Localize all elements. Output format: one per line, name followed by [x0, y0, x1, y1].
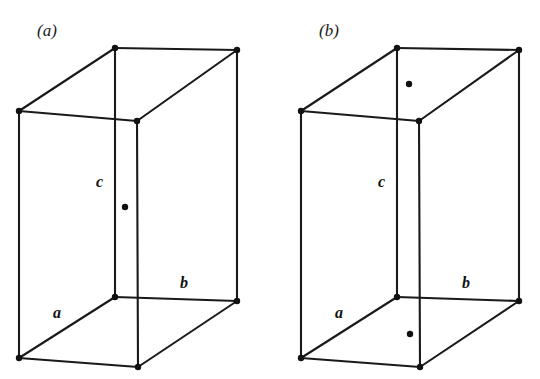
lattice-point-face-centre-dot — [122, 204, 128, 210]
panel-caption-a: (a) — [37, 21, 57, 40]
cell-edge-bottom-back-left-to-bottom-back-right — [115, 297, 237, 301]
cell-edge-top-front-right-to-bottom-front-right — [137, 121, 138, 367]
cell-edge-top-front-left-to-top-front-right — [19, 111, 137, 121]
vertex-dot-top-back-left — [394, 45, 400, 51]
vertex-dot-bottom-front-left — [16, 355, 22, 361]
cell-edge-bottom-back-right-to-bottom-front-right — [138, 301, 237, 367]
vertex-dot-top-front-right — [416, 118, 422, 124]
lattice-point-top-face-centre-dot — [406, 81, 412, 87]
cell-edge-top-front-right-to-bottom-front-right — [419, 121, 420, 367]
panel-caption-b: (b) — [319, 21, 339, 40]
figure-canvas: abc(a)abc(b) — [0, 0, 540, 379]
vertex-dot-bottom-back-left — [112, 294, 118, 300]
vertex-dot-top-back-right — [234, 47, 240, 53]
axis-label-b: b — [462, 274, 470, 291]
cell-edge-bottom-front-left-to-bottom-front-right — [19, 358, 138, 367]
cell-edge-top-back-left-to-top-front-left — [301, 48, 397, 111]
vertex-dot-top-front-right — [134, 118, 140, 124]
vertex-dot-bottom-back-right — [234, 298, 240, 304]
lattice-point-bottom-face-centre-dot — [407, 331, 413, 337]
vertex-dot-bottom-back-left — [394, 294, 400, 300]
cell-edge-bottom-back-left-to-bottom-front-left — [19, 297, 115, 358]
vertex-dot-bottom-back-right — [516, 298, 522, 304]
vertex-dot-bottom-front-left — [298, 355, 304, 361]
axis-label-c: c — [378, 173, 385, 190]
cell-edge-top-front-left-to-top-front-right — [301, 111, 419, 121]
cell-edge-bottom-front-left-to-bottom-front-right — [301, 358, 420, 367]
axis-label-a: a — [53, 304, 61, 321]
cell-edge-bottom-back-right-to-bottom-front-right — [420, 301, 519, 367]
unit-cell-figure: abc(a)abc(b) — [0, 0, 540, 379]
cell-edge-bottom-back-left-to-bottom-front-left — [301, 297, 397, 358]
axis-label-b: b — [180, 274, 188, 291]
vertex-dot-top-back-left — [112, 45, 118, 51]
vertex-dot-bottom-front-right — [135, 364, 141, 370]
cell-edge-top-back-left-to-top-back-right — [397, 48, 519, 50]
unit-cell-panel-b: abc(b) — [298, 21, 522, 370]
cell-edge-bottom-back-left-to-bottom-back-right — [397, 297, 519, 301]
axis-label-a: a — [335, 304, 343, 321]
unit-cell-panel-a: abc(a) — [16, 21, 240, 370]
cell-edge-top-back-left-to-top-front-left — [19, 48, 115, 111]
cell-edge-top-back-right-to-top-front-right — [137, 50, 237, 121]
vertex-dot-top-front-left — [298, 108, 304, 114]
vertex-dot-top-front-left — [16, 108, 22, 114]
axis-label-c: c — [96, 173, 103, 190]
cell-edge-top-back-left-to-top-back-right — [115, 48, 237, 50]
vertex-dot-bottom-front-right — [417, 364, 423, 370]
cell-edge-top-back-right-to-top-front-right — [419, 50, 519, 121]
vertex-dot-top-back-right — [516, 47, 522, 53]
